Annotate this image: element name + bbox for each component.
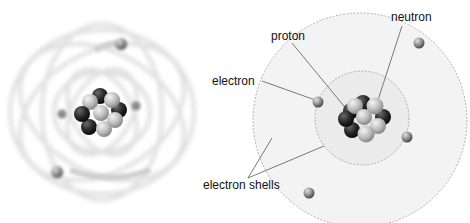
right-shell-model xyxy=(248,13,467,223)
electron-blurred xyxy=(115,38,127,50)
electron xyxy=(402,132,413,143)
electron xyxy=(414,38,425,49)
label-electron-shells: electron shells xyxy=(203,178,280,192)
left-nucleus xyxy=(74,88,127,137)
label-electron: electron xyxy=(212,74,255,88)
electron-blurred xyxy=(58,110,67,119)
atom-diagram: neutron proton electron electron shells xyxy=(0,0,470,223)
electron xyxy=(313,97,324,108)
label-proton: proton xyxy=(271,29,305,43)
electron-blurred xyxy=(51,166,63,178)
label-neutron: neutron xyxy=(391,10,432,24)
electron xyxy=(304,188,315,199)
electron-blurred xyxy=(132,102,141,111)
left-orbital-model xyxy=(0,16,208,208)
